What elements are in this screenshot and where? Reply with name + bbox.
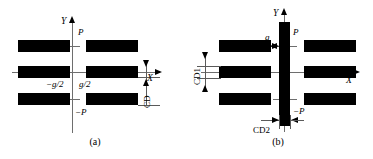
panel-a-label-positive-pitch: P — [78, 28, 84, 37]
panel-a-bar-bottom-left — [18, 93, 70, 105]
panel-b-cd2-dimension-line-right — [290, 120, 304, 121]
panel-b-cd1-arrow-down — [202, 52, 208, 59]
panel-b-cd2-arrow-right — [272, 117, 279, 123]
panel-a-cd-arrow-down — [143, 60, 149, 67]
panel-a-bar-middle-left — [18, 66, 70, 78]
panel-a-label-gap-right: g/2 — [79, 80, 91, 89]
panel-a-caption: (a) — [0, 137, 190, 147]
panel-a-label-y-axis: Y — [61, 17, 66, 26]
panel-b-bar-top-left — [219, 40, 271, 52]
panel-b-bar-top-right — [304, 40, 356, 52]
panel-b-bar-vertical-center — [279, 22, 290, 126]
figure-container: CD Y X P −P −g/2 g/2 (a) — [0, 0, 373, 159]
panel-b-cd2-witness-left — [279, 115, 280, 129]
panel-b-cd1-witness-upper — [197, 66, 221, 67]
panel-a-bar-middle-right — [86, 66, 138, 78]
panel-a-bar-top-left — [18, 40, 70, 52]
panel-b: g CD1 CD2 Y X P −P (b) — [183, 0, 373, 159]
panel-a-y-axis-arrowhead — [69, 16, 75, 23]
panel-b-label-cd1: CD1 — [193, 68, 202, 85]
panel-b-bar-middle-left — [219, 66, 271, 78]
panel-b-label-cd2: CD2 — [253, 126, 270, 135]
panel-b-bar-bottom-left — [219, 93, 271, 105]
panel-b-caption: (b) — [183, 137, 373, 147]
panel-b-tick-positive-pitch-right — [289, 46, 297, 47]
panel-b-label-negative-pitch: −P — [293, 107, 305, 116]
panel-a-label-x-axis: X — [147, 74, 153, 83]
panel-a-label-cd: CD — [143, 95, 152, 108]
panel-b-label-positive-pitch: P — [293, 28, 299, 37]
panel-b-label-gap: g — [265, 33, 270, 42]
panel-b-label-x-axis: X — [346, 76, 352, 85]
panel-a-y-axis — [72, 22, 73, 133]
panel-a: CD Y X P −P −g/2 g/2 (a) — [0, 0, 190, 159]
panel-b-label-y-axis: Y — [273, 9, 278, 18]
panel-a-label-negative-pitch: −P — [75, 108, 87, 117]
panel-a-bar-bottom-right — [86, 93, 138, 105]
panel-b-bar-bottom-right — [304, 93, 356, 105]
panel-a-bar-top-right — [86, 40, 138, 52]
panel-a-stage: CD Y X P −P −g/2 g/2 (a) — [0, 0, 190, 159]
panel-b-cd1-arrow-up — [202, 85, 208, 92]
panel-b-gap-arrow-right — [272, 43, 279, 49]
panel-a-label-gap-left: −g/2 — [46, 80, 64, 89]
panel-a-x-axis-arrowhead — [155, 69, 162, 75]
panel-b-stage: g CD1 CD2 Y X P −P (b) — [183, 0, 373, 159]
panel-b-y-axis-arrowhead — [281, 8, 287, 15]
panel-b-tick-negative-pitch-right — [289, 99, 297, 100]
